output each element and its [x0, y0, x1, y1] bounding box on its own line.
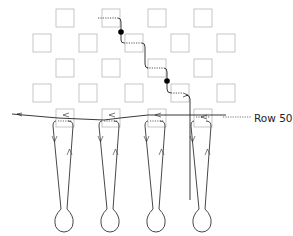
grid-square — [194, 109, 212, 127]
grid-squares — [33, 9, 235, 127]
grid-square — [148, 109, 166, 127]
loops — [52, 121, 211, 232]
grid-square — [102, 59, 120, 77]
grid-square — [33, 34, 51, 52]
grid-square — [194, 9, 212, 27]
node-dot — [164, 78, 170, 84]
grid-square — [148, 9, 166, 27]
grid-square — [79, 84, 97, 102]
node-dot — [118, 29, 124, 35]
grid-square — [194, 59, 212, 77]
row-label: Row 50 — [254, 112, 293, 124]
stitch-diagram — [0, 0, 293, 236]
grid-square — [33, 84, 51, 102]
grid-square — [217, 84, 235, 102]
grid-square — [79, 34, 97, 52]
grid-square — [217, 34, 235, 52]
grid-square — [171, 34, 189, 52]
grid-square — [125, 84, 143, 102]
path-nodes — [118, 29, 170, 84]
grid-square — [56, 9, 74, 27]
grid-square — [56, 59, 74, 77]
